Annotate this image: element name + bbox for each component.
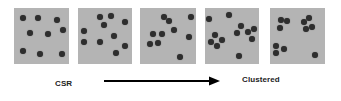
- point-dot: [108, 13, 114, 19]
- point-dot: [284, 18, 290, 24]
- point-dot: [277, 25, 283, 31]
- point-dot: [245, 29, 251, 35]
- point-dot: [147, 41, 153, 47]
- point-dot: [273, 43, 279, 49]
- point-dot: [226, 12, 232, 18]
- point-dot: [101, 22, 107, 28]
- point-dot: [238, 23, 244, 29]
- point-dot: [249, 36, 255, 42]
- point-dot: [171, 27, 177, 33]
- point-dot: [188, 14, 194, 20]
- point-dot: [54, 17, 60, 23]
- point-dot: [60, 27, 66, 33]
- point-dot: [111, 33, 117, 39]
- point-dot: [122, 19, 128, 25]
- point-dot: [159, 31, 165, 37]
- point-dot: [81, 28, 87, 34]
- point-dot: [312, 52, 318, 58]
- point-dot: [219, 37, 225, 43]
- point-dot: [251, 26, 257, 32]
- point-dot: [186, 34, 192, 40]
- point-dot: [166, 18, 172, 24]
- point-dot: [150, 31, 156, 37]
- point-dot: [212, 32, 218, 38]
- point-dot: [20, 15, 26, 21]
- point-dot: [81, 39, 87, 45]
- point-dot: [27, 30, 33, 36]
- point-dot: [113, 50, 119, 56]
- point-dot: [45, 31, 51, 37]
- point-dot: [20, 48, 26, 54]
- point-dot: [97, 14, 103, 20]
- pattern-panel-2: [78, 8, 132, 64]
- point-dot: [208, 39, 214, 45]
- point-dot: [309, 24, 315, 30]
- point-dot: [155, 40, 161, 46]
- point-dot: [234, 30, 240, 36]
- point-dot: [236, 53, 242, 59]
- point-dot: [206, 16, 212, 22]
- point-dot: [35, 15, 41, 21]
- point-dot: [303, 26, 309, 32]
- point-dot: [37, 51, 43, 57]
- point-dot: [273, 50, 279, 56]
- point-dot: [97, 39, 103, 45]
- csr-label: CSR: [55, 79, 72, 88]
- point-dot: [177, 54, 183, 60]
- point-dot: [306, 15, 312, 21]
- clustered-label: Clustered: [242, 75, 280, 84]
- point-dot: [214, 43, 220, 49]
- point-dot: [59, 51, 65, 57]
- point-dot: [122, 43, 128, 49]
- point-dot: [281, 46, 287, 52]
